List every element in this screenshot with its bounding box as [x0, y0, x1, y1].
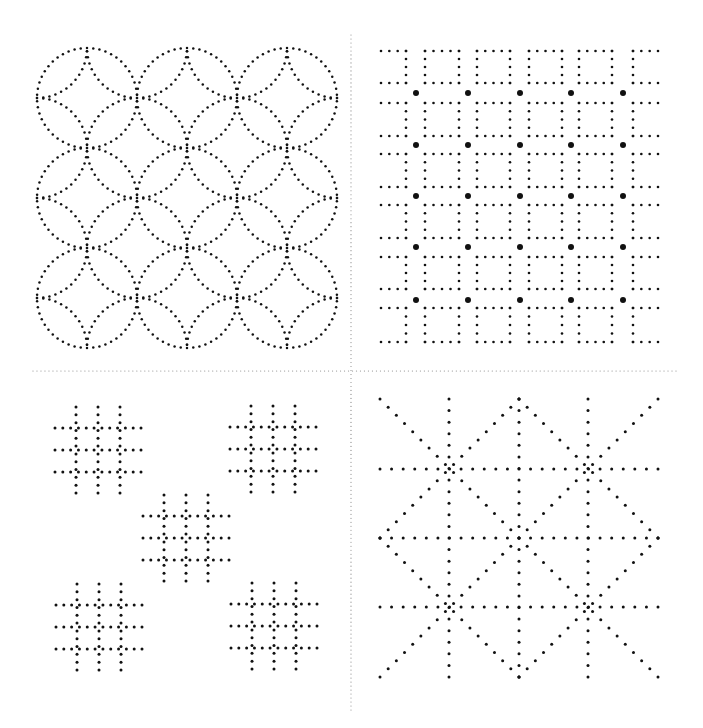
background — [0, 0, 703, 728]
pattern-sheet — [0, 0, 703, 728]
pattern-canvas — [0, 0, 703, 728]
